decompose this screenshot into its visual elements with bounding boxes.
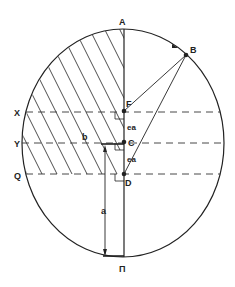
label-pi: Π — [119, 264, 126, 274]
label-a-point: A — [119, 17, 126, 27]
point-d — [122, 172, 127, 177]
line-bf — [124, 55, 186, 111]
label-f: F — [126, 99, 132, 109]
label-b-point: B — [190, 45, 197, 55]
label-a: a — [101, 206, 107, 216]
label-ea-fc: ea — [127, 123, 136, 132]
label-b: b — [82, 132, 88, 142]
label-q: Q — [14, 171, 21, 181]
ellipse-orbit-diagram: A B F C D X Y Q Π ea ea b a — [0, 0, 235, 287]
arrow-up-icon — [103, 145, 107, 152]
label-c: C — [128, 138, 135, 148]
label-d: D — [125, 178, 132, 188]
point-b — [184, 53, 189, 58]
hatched-region — [0, 10, 180, 190]
label-ea-cd: ea — [127, 155, 136, 164]
label-x: X — [14, 108, 20, 118]
label-y: Y — [14, 139, 20, 149]
point-c — [122, 140, 127, 145]
point-f — [122, 109, 127, 114]
